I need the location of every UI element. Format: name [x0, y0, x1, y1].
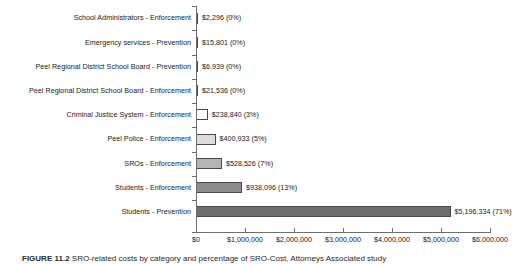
- category-label: Students - Enforcement: [0, 184, 196, 191]
- bar[interactable]: [196, 182, 242, 193]
- bar[interactable]: [196, 206, 451, 217]
- bar-wrapper: $238,840 (3%): [196, 103, 259, 127]
- chart-row: Students - Prevention $5,196,334 (71%): [0, 200, 530, 224]
- chart-row: School Administrators - Enforcement $2,2…: [0, 6, 530, 30]
- x-axis-tick: [441, 228, 442, 233]
- chart-row: Criminal Justice System - Enforcement $2…: [0, 103, 530, 127]
- chart-row: Peel Regional District School Board - Pr…: [0, 54, 530, 78]
- bar-wrapper: $5,196,334 (71%): [196, 200, 512, 224]
- x-axis-tick-label: $1,000,000: [227, 236, 263, 243]
- x-axis-tick: [245, 228, 246, 233]
- y-axis-tick: [192, 55, 197, 56]
- x-axis-tick-label: $6,000,000: [472, 236, 508, 243]
- bar-value-label: $400,933 (5%): [220, 135, 267, 142]
- x-axis-tick-label: $4,000,000: [374, 236, 410, 243]
- bar[interactable]: [196, 109, 208, 120]
- bar-value-label: $528,526 (7%): [226, 160, 273, 167]
- bar-value-label: $5,196,334 (71%): [455, 208, 512, 215]
- x-axis-tick-label: $0: [192, 236, 200, 243]
- figure-caption: FIGURE 11.2 SRO-related costs by categor…: [22, 255, 522, 264]
- y-axis-tick: [192, 127, 197, 128]
- bar-value-label: $21,536 (0%): [202, 87, 245, 94]
- y-axis-tick: [192, 200, 197, 201]
- category-label: Peel Regional District School Board - En…: [0, 87, 196, 94]
- bar-wrapper: $528,526 (7%): [196, 151, 273, 175]
- y-axis-line: [196, 6, 197, 232]
- bar-wrapper: $15,801 (0%): [196, 30, 245, 54]
- y-axis-tick: [192, 176, 197, 177]
- chart-row: Peel Regional District School Board - En…: [0, 79, 530, 103]
- y-axis-tick: [192, 30, 197, 31]
- bar-wrapper: $21,536 (0%): [196, 79, 245, 103]
- chart-row: Peel Police - Enforcement $400,933 (5%): [0, 127, 530, 151]
- category-label: Emergency services - Prevention: [0, 39, 196, 46]
- chart-row: SROs - Enforcement $528,526 (7%): [0, 151, 530, 175]
- bar-value-label: $2,296 (0%): [202, 14, 241, 21]
- category-label: School Administrators - Enforcement: [0, 14, 196, 21]
- bar-wrapper: $6,939 (0%): [196, 54, 241, 78]
- x-axis-tick-label: $2,000,000: [276, 236, 312, 243]
- y-axis-tick: [192, 152, 197, 153]
- bar-wrapper: $938,096 (13%): [196, 175, 297, 199]
- figure-container: School Administrators - Enforcement $2,2…: [0, 0, 530, 265]
- chart-row: Students - Enforcement $938,096 (13%): [0, 175, 530, 199]
- y-axis-tick: [192, 6, 197, 7]
- chart-row: Emergency services - Prevention $15,801 …: [0, 30, 530, 54]
- y-axis-tick: [192, 103, 197, 104]
- x-axis-tick: [294, 228, 295, 233]
- bar-wrapper: $400,933 (5%): [196, 127, 267, 151]
- category-label: Peel Police - Enforcement: [0, 135, 196, 142]
- x-axis-tick: [490, 228, 491, 233]
- y-axis-tick: [192, 79, 197, 80]
- category-label: Peel Regional District School Board - Pr…: [0, 63, 196, 70]
- x-axis-tick: [392, 228, 393, 233]
- bar-wrapper: $2,296 (0%): [196, 6, 241, 30]
- bar[interactable]: [196, 134, 216, 145]
- figure-caption-text: SRO-related costs by category and percen…: [72, 254, 386, 263]
- x-axis-tick: [343, 228, 344, 233]
- bar-value-label: $238,840 (3%): [212, 111, 259, 118]
- category-label: Students - Prevention: [0, 208, 196, 215]
- x-axis-tick-label: $3,000,000: [325, 236, 361, 243]
- x-axis-tick: [196, 228, 197, 233]
- bar-value-label: $938,096 (13%): [246, 184, 297, 191]
- bar-value-label: $15,801 (0%): [202, 39, 245, 46]
- bar[interactable]: [196, 158, 222, 169]
- bar-rows: School Administrators - Enforcement $2,2…: [0, 6, 530, 232]
- figure-number: FIGURE 11.2: [22, 254, 70, 263]
- category-label: SROs - Enforcement: [0, 160, 196, 167]
- x-axis-tick-label: $5,000,000: [423, 236, 459, 243]
- category-label: Criminal Justice System - Enforcement: [0, 111, 196, 118]
- bar-value-label: $6,939 (0%): [202, 63, 241, 70]
